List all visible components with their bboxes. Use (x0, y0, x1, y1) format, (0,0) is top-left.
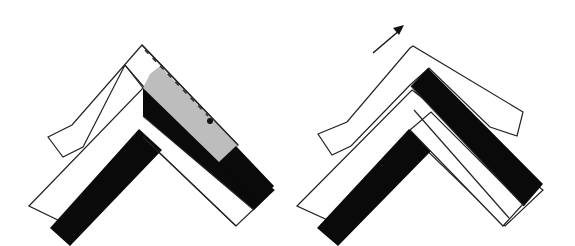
diagram-svg (0, 0, 575, 246)
diagram-stage (0, 0, 575, 246)
right-direction-arrow (373, 25, 404, 53)
left-panel (29, 45, 274, 246)
left-dot-marker (207, 118, 213, 124)
right-panel (297, 25, 543, 246)
